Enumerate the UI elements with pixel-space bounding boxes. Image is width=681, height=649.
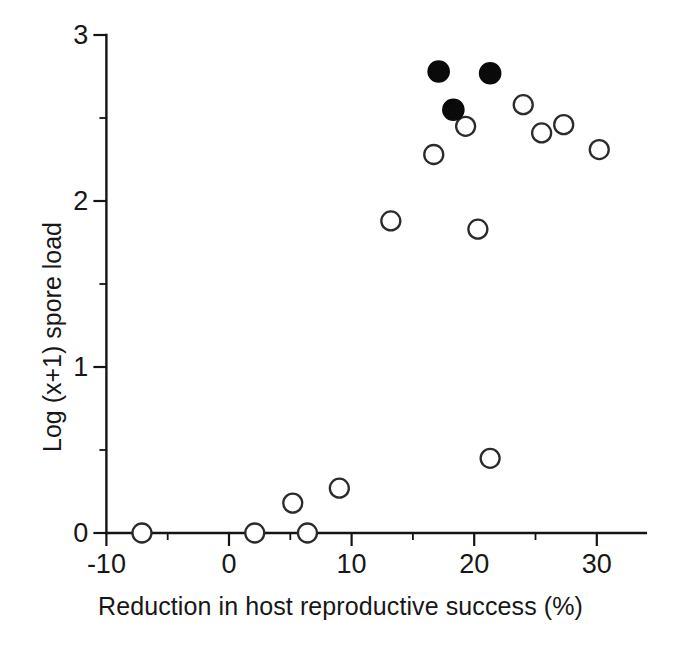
y-axis-title: Log (x+1) spore load bbox=[38, 222, 67, 452]
data-point-open bbox=[132, 524, 151, 543]
data-point-filled bbox=[443, 99, 464, 120]
y-tick-label: 3 bbox=[48, 22, 88, 49]
data-point-open bbox=[456, 117, 475, 136]
x-tick-label: 0 bbox=[221, 551, 236, 578]
data-point-open bbox=[424, 145, 443, 164]
x-tick-label: 30 bbox=[582, 551, 612, 578]
data-point-open bbox=[481, 449, 500, 468]
x-axis-title: Reduction in host reproductive success (… bbox=[0, 592, 681, 621]
data-point-open bbox=[590, 140, 609, 159]
y-tick-label: 0 bbox=[48, 520, 88, 547]
data-point-open bbox=[532, 123, 551, 142]
data-point-open bbox=[298, 524, 317, 543]
x-tick-label: -10 bbox=[87, 551, 126, 578]
x-tick-label: 20 bbox=[459, 551, 489, 578]
data-point-open bbox=[381, 211, 400, 230]
data-point-open bbox=[245, 524, 264, 543]
data-point-open bbox=[468, 220, 487, 239]
y-tick-label: 2 bbox=[48, 188, 88, 215]
x-tick-label: 10 bbox=[337, 551, 367, 578]
data-point-open bbox=[514, 95, 533, 114]
data-point-open bbox=[330, 479, 349, 498]
data-point-open bbox=[283, 494, 302, 513]
data-point-open bbox=[554, 115, 573, 134]
data-point-filled bbox=[480, 63, 501, 84]
data-point-filled bbox=[428, 61, 449, 82]
scatter-plot-figure: 0123-100102030 Reduction in host reprodu… bbox=[0, 0, 681, 649]
